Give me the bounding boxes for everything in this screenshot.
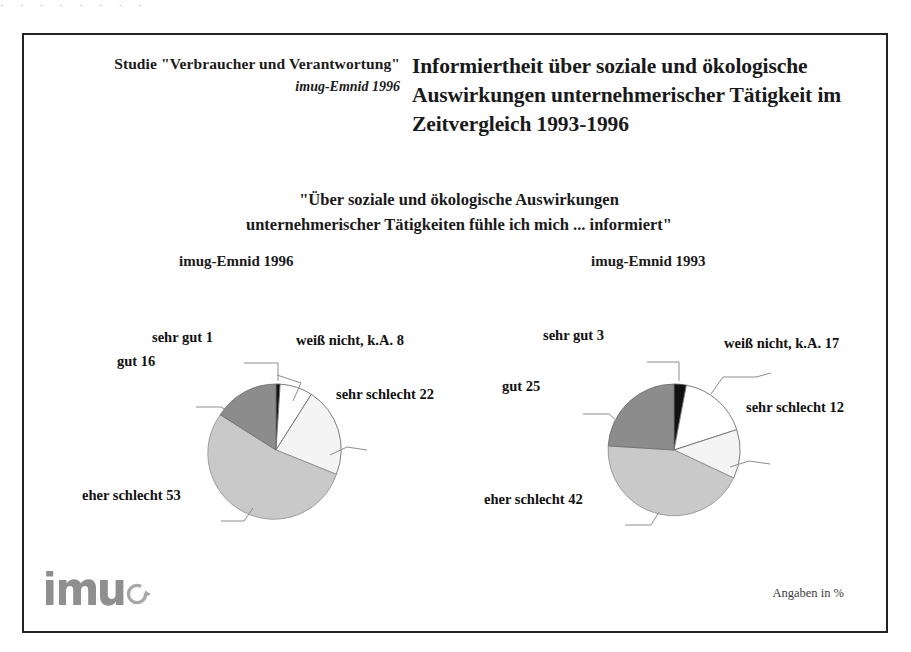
label-weiss-nicht-1996: weiß nicht, k.A. 8 — [296, 332, 404, 349]
chart-title-1993: imug-Emnid 1993 — [591, 253, 706, 270]
imug-logo — [40, 567, 172, 609]
label-gut-1996: gut 16 — [117, 353, 155, 370]
label-eher-schlecht-1996: eher schlecht 53 — [82, 487, 181, 504]
chart-title-1996: imug-Emnid 1996 — [179, 253, 294, 270]
pie-slice-gut-1993 — [608, 384, 674, 450]
footer-note: Angaben in % — [772, 586, 844, 601]
label-sehr-schlecht-1993: sehr schlecht 12 — [746, 399, 844, 416]
header-left-block: Studie "Verbraucher und Verantwortung" i… — [60, 55, 400, 95]
study-source: imug-Emnid 1996 — [60, 79, 400, 95]
label-sehr-gut-1996: sehr gut 1 — [152, 329, 213, 346]
pie-slices-1993 — [608, 384, 740, 516]
scan-artifact: ........ — [0, 0, 911, 6]
label-eher-schlecht-1993: eher schlecht 42 — [484, 491, 583, 508]
logo-g-swirl — [128, 585, 151, 602]
pie-slices-1996 — [208, 384, 341, 519]
page-title: Informiertheit über soziale und ökologis… — [412, 52, 874, 139]
subtitle-line-1: "Über soziale und ökologische Auswirkung… — [64, 187, 854, 212]
label-gut-1993: gut 25 — [502, 378, 540, 395]
slide-frame: Studie "Verbraucher und Verantwortung" i… — [22, 33, 888, 633]
label-weiss-nicht-1993: weiß nicht, k.A. 17 — [724, 335, 839, 352]
label-sehr-gut-1993: sehr gut 3 — [543, 327, 604, 344]
subtitle: "Über soziale und ökologische Auswirkung… — [64, 187, 854, 237]
study-title: Studie "Verbraucher und Verantwortung" — [60, 55, 400, 73]
label-sehr-schlecht-1996: sehr schlecht 22 — [336, 386, 434, 403]
subtitle-line-2: unternehmerischer Tätigkeiten fühle ich … — [64, 212, 854, 237]
